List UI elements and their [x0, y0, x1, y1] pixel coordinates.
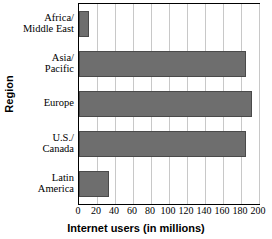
x-axis-tick-label: 20: [91, 205, 101, 216]
x-axis-tick-label: 180: [233, 205, 248, 216]
y-axis-tick-labels: Africa/Middle EastAsia/PacificEuropeU.S.…: [20, 3, 74, 203]
y-axis-title: Region: [3, 64, 15, 124]
bar: [79, 51, 246, 77]
x-axis-tick-label: 200: [251, 205, 266, 216]
plot-area: [78, 3, 260, 205]
x-axis-tick-label: 160: [215, 205, 230, 216]
y-axis-tick-label-line: America: [20, 183, 74, 195]
bar: [79, 11, 89, 37]
bar: [79, 171, 109, 197]
y-axis-tick-label-line: U.S./: [20, 132, 74, 144]
gridline: [259, 4, 260, 204]
x-axis-tick-label: 60: [127, 205, 137, 216]
x-axis-tick-label: 120: [179, 205, 194, 216]
y-axis-tick-label-line: Europe: [20, 97, 74, 109]
x-axis-tick-label: 140: [197, 205, 212, 216]
bar: [79, 91, 252, 117]
x-axis-tick-label: 0: [76, 205, 81, 216]
x-axis-title: Internet users (in millions): [0, 222, 272, 234]
x-axis-tick-labels: 020406080100120140160180200: [78, 205, 258, 219]
x-axis-tick-label: 100: [161, 205, 176, 216]
bar-series: [79, 4, 259, 204]
y-axis-tick-label-line: Latin: [20, 172, 74, 184]
y-axis-tick-label: LatinAmerica: [20, 172, 74, 195]
y-axis-tick-label: Africa/Middle East: [20, 12, 74, 35]
y-axis-tick-label-line: Canada: [20, 143, 74, 155]
bar-chart: Region Africa/Middle EastAsia/PacificEur…: [0, 0, 272, 239]
y-axis-tick-label: U.S./Canada: [20, 132, 74, 155]
y-axis-tick-label-line: Pacific: [20, 63, 74, 75]
y-axis-tick-label-line: Africa/: [20, 12, 74, 24]
x-axis-tick-label: 40: [109, 205, 119, 216]
x-axis-tick-label: 80: [145, 205, 155, 216]
y-axis-tick-label: Europe: [20, 97, 74, 109]
y-axis-tick-label: Asia/Pacific: [20, 52, 74, 75]
y-axis-tick-label-line: Asia/: [20, 52, 74, 64]
y-axis-tick-label-line: Middle East: [20, 23, 74, 35]
bar: [79, 131, 246, 157]
